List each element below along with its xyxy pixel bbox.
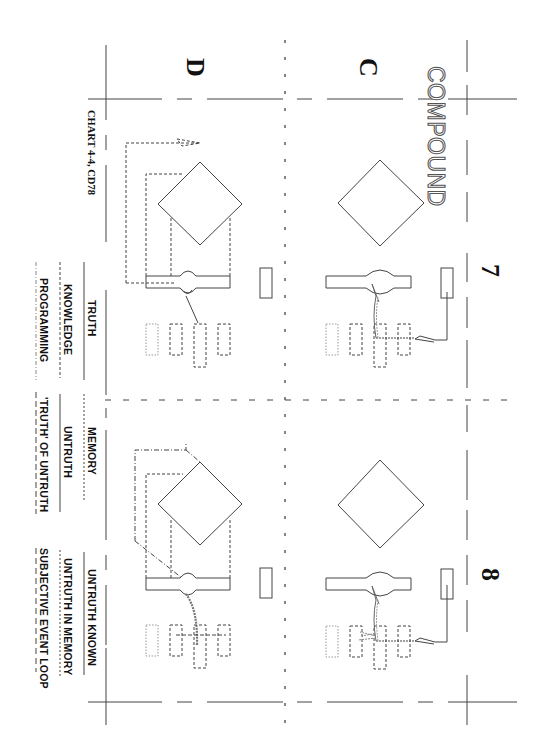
bar-with-bulge [326,572,411,596]
panel-label-d: D [180,58,210,77]
slots [326,626,410,669]
column-number-7: 7 [475,264,505,277]
document-title-compound: COMPOUND [422,66,449,207]
slots [146,625,230,668]
bar-with-bulge [326,270,411,294]
chart-caption: CHART 4-4, CD78 [86,110,97,195]
bar-with-bulge [146,573,230,595]
diamond [338,460,424,548]
panel-d7 [126,139,272,367]
panel-label-c: C [353,58,383,77]
legend-knowledge: KNOWLEDGE [62,284,74,355]
column-number-8: 8 [475,568,505,581]
panel-c8 [326,460,453,669]
legend-programming: PROGRAMMING [38,278,50,362]
panel-d8 [135,444,272,668]
small-rectangle [260,268,272,298]
diamond [338,160,424,246]
bar-with-bulge [146,271,230,293]
small-rectangle [260,568,272,598]
legend-untruth-in-memory: UNTRUTH IN MEMORY [62,558,74,675]
legend-untruth-known: UNTRUTH KNOWN [86,569,98,666]
diagram-canvas [0,0,544,756]
legend-truth: TRUTH [86,300,98,337]
legend-memory: MEMORY [86,427,98,475]
legend-subjective-event-loop: SUBJECTIVE EVENT LOOP [38,548,50,689]
slots [326,324,410,367]
legend-untruth: UNTRUTH [62,426,74,478]
legend-truth-of-untruth: 'TRUTH' OF UNTRUTH [38,397,50,512]
slots [146,324,230,367]
